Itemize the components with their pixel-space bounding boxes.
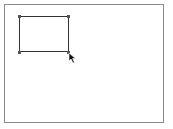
rectangle-shape[interactable] bbox=[19, 16, 69, 52]
resize-handle-top-left[interactable] bbox=[18, 15, 21, 18]
arrow-pointer-icon bbox=[68, 52, 78, 64]
resize-handle-top-right[interactable] bbox=[67, 15, 70, 18]
resize-handle-bottom-left[interactable] bbox=[18, 51, 21, 54]
